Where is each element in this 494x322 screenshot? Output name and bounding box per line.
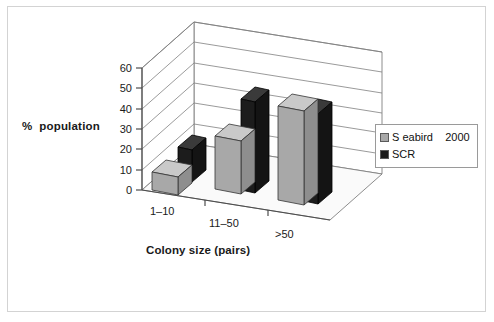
y-axis-title: % population [22, 121, 100, 133]
x-tick-label-1-10: 1–10 [150, 206, 174, 217]
y-tick-label-40: 40 [110, 104, 132, 115]
bar-group-3 [278, 94, 332, 205]
x-tick-label-11-50: 11–50 [209, 218, 239, 229]
legend-label-seabird: S eabird 2000 [392, 132, 470, 143]
bar-seabird-gt50[interactable] [278, 94, 318, 205]
x-axis-title: Colony size (pairs) [146, 245, 250, 257]
bar-seabird-11-50[interactable] [215, 124, 255, 194]
y-tick-label-60: 60 [110, 63, 132, 74]
y-tick-label-20: 20 [110, 144, 132, 155]
y-tick-label-10: 10 [110, 165, 132, 176]
chart-figure: 60 50 40 30 20 10 0 1–10 11–50 >50 % pop… [0, 0, 494, 322]
legend-entry-scr[interactable]: SCR [380, 146, 473, 163]
legend-swatch-seabird [380, 133, 389, 142]
y-tick-label-0: 0 [110, 185, 132, 196]
legend: S eabird 2000 SCR [375, 124, 478, 168]
legend-swatch-scr [380, 150, 389, 159]
legend-label-scr: SCR [392, 149, 415, 160]
y-tick-label-30: 30 [110, 124, 132, 135]
legend-entry-seabird[interactable]: S eabird 2000 [380, 129, 473, 146]
x-tick-label-gt50: >50 [275, 229, 294, 240]
y-axis [136, 68, 142, 190]
y-tick-label-50: 50 [110, 83, 132, 94]
